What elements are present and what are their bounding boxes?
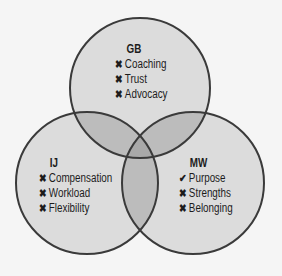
cross-icon: ✖: [115, 57, 125, 72]
cross-icon: ✖: [39, 186, 49, 201]
list-item: ✖Trust: [115, 72, 168, 87]
list-item: ✖Workload: [39, 186, 112, 201]
set-ij-labels: IJ ✖Compensation ✖Workload ✖Flexibility: [39, 156, 112, 216]
list-item: ✔Purpose: [179, 171, 233, 186]
set-ij-title: IJ: [39, 156, 112, 171]
cross-icon: ✖: [115, 87, 125, 102]
set-mw-title: MW: [179, 156, 233, 171]
set-gb-title: GB: [115, 42, 168, 57]
list-item: ✖Flexibility: [39, 201, 112, 216]
check-icon: ✔: [179, 171, 189, 186]
item-label: Strengths: [189, 186, 231, 200]
list-item: ✖Coaching: [115, 57, 168, 72]
cross-icon: ✖: [115, 72, 125, 87]
cross-icon: ✖: [39, 201, 49, 216]
item-label: Coaching: [125, 57, 167, 71]
item-label: Advocacy: [125, 87, 168, 101]
cross-icon: ✖: [179, 186, 189, 201]
item-label: Trust: [125, 72, 147, 86]
list-item: ✖Compensation: [39, 171, 112, 186]
cross-icon: ✖: [179, 201, 189, 216]
set-gb-labels: GB ✖Coaching ✖Trust ✖Advocacy: [115, 42, 168, 102]
item-label: Workload: [49, 186, 90, 200]
list-item: ✖Advocacy: [115, 87, 168, 102]
list-item: ✖Strengths: [179, 186, 233, 201]
cross-icon: ✖: [39, 171, 49, 186]
item-label: Compensation: [49, 171, 112, 185]
item-label: Belonging: [189, 201, 233, 215]
set-mw-labels: MW ✔Purpose ✖Strengths ✖Belonging: [179, 156, 233, 216]
list-item: ✖Belonging: [179, 201, 233, 216]
item-label: Purpose: [189, 171, 226, 185]
item-label: Flexibility: [49, 201, 89, 215]
